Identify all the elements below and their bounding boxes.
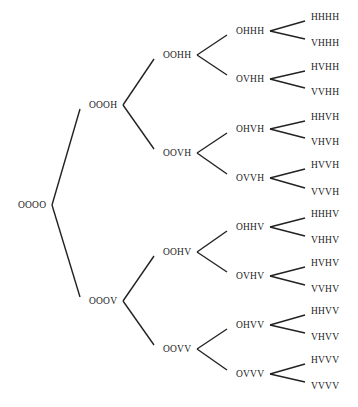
cropped-caption	[0, 398, 358, 407]
tree-node-oovv: OOVV	[163, 344, 191, 354]
tree-node-oohh: OOHH	[163, 50, 191, 60]
tree-edge	[197, 329, 227, 349]
tree-edge	[270, 71, 305, 79]
tree-node-ohvh: OHVH	[236, 124, 264, 134]
tree-node-vhvv: VHVV	[311, 332, 339, 342]
tree-edge	[270, 79, 305, 88]
tree-edge	[270, 178, 305, 188]
tree-node-hvvh: HVVH	[311, 160, 339, 170]
tree-node-hhhv: HHHV	[311, 209, 339, 219]
tree-edge	[270, 129, 305, 138]
tree-edge	[197, 252, 227, 272]
tree-node-hhhh: HHHH	[311, 12, 339, 22]
tree-edge	[123, 256, 154, 301]
tree-node-hhvh: HHVH	[311, 112, 339, 122]
tree-edge	[270, 21, 305, 31]
tree-node-oooh: OOOH	[89, 100, 117, 110]
tree-edge	[123, 301, 154, 345]
tree-edge	[270, 31, 305, 39]
tree-edge	[197, 349, 227, 370]
tree-node-ovhh: OVHH	[236, 74, 264, 84]
tree-edge	[270, 276, 305, 285]
tree-node-vhvh: VHVH	[311, 137, 339, 147]
tree-edge	[270, 325, 305, 333]
tree-node-ovvv: OVVV	[236, 369, 264, 379]
tree-edge	[197, 133, 227, 153]
tree-edge	[270, 218, 305, 227]
tree-node-ohvv: OHVV	[236, 320, 264, 330]
tree-node-vvvv: VVVV	[311, 381, 339, 391]
tree-node-vhhh: VHHH	[311, 38, 339, 48]
tree-node-ohhh: OHHH	[236, 26, 264, 36]
tree-edge	[123, 105, 154, 149]
tree-edge	[197, 55, 227, 75]
tree-node-ovvh: OVVH	[236, 173, 264, 183]
tree-edge	[52, 205, 80, 297]
tree-node-hvhh: HVHH	[311, 62, 339, 72]
tree-node-vvhh: VVHH	[311, 87, 339, 97]
tree-edge	[197, 35, 227, 55]
tree-node-oohv: OOHV	[163, 247, 191, 257]
tree-edge	[270, 121, 305, 129]
tree-edge	[197, 231, 227, 252]
tree-edge	[52, 109, 80, 205]
tree-node-vhhv: VHHV	[311, 235, 339, 245]
tree-edge	[197, 153, 227, 174]
tree-node-ooov: OOOV	[89, 296, 117, 306]
tree-edge	[270, 315, 305, 325]
tree-edge	[270, 169, 305, 178]
tree-node-oovh: OOVH	[163, 148, 191, 158]
tree-edge	[270, 374, 305, 382]
tree-edge	[270, 267, 305, 276]
tree-node-hvvv: HVVV	[311, 355, 339, 365]
tree-node-ohhv: OHHV	[236, 222, 264, 232]
tree-edge	[270, 364, 305, 374]
tree-node-vvvh: VVVH	[311, 187, 339, 197]
tree-node-ovhv: OVHV	[236, 271, 264, 281]
tree-edge	[270, 227, 305, 236]
tree-node-hvhv: HVHV	[311, 258, 339, 268]
tree-node-oooo: OOOO	[18, 200, 46, 210]
tree-node-vvhv: VVHV	[311, 284, 339, 294]
tree-node-hhvv: HHVV	[311, 306, 339, 316]
tree-edge	[123, 59, 154, 105]
